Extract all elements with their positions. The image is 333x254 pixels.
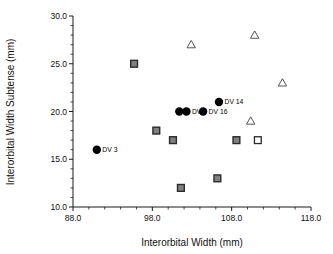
y-tick-label: 25.0 xyxy=(50,59,67,69)
scatter-chart: 10.015.020.025.030.0 88.098.0108.0118.0 … xyxy=(0,0,333,254)
marker-open-square xyxy=(254,137,261,144)
marker-filled-circle xyxy=(199,107,207,115)
chart-svg: 10.015.020.025.030.0 88.098.0108.0118.0 … xyxy=(0,0,333,254)
y-tick-label: 20.0 xyxy=(50,107,67,117)
x-tick-label: 88.0 xyxy=(65,213,82,223)
series-open-squares xyxy=(254,137,261,144)
x-tick-label: 108.0 xyxy=(221,213,243,223)
x-tick-label: 98.0 xyxy=(144,213,161,223)
point-label: DV 14 xyxy=(224,98,243,105)
x-axis-title: Interorbital Width (mm) xyxy=(141,237,243,248)
chart-background xyxy=(0,0,333,254)
marker-filled-square xyxy=(153,127,160,134)
point-label: DV 3 xyxy=(102,146,117,153)
y-tick-label: 15.0 xyxy=(50,154,67,164)
y-axis-title: Interorbital Width Subtense (mm) xyxy=(5,39,16,186)
y-tick-label: 10.0 xyxy=(50,202,67,212)
marker-filled-circle xyxy=(182,107,190,115)
marker-filled-square xyxy=(214,175,221,182)
y-tick-label: 30.0 xyxy=(50,11,67,21)
marker-filled-circle xyxy=(215,98,223,106)
marker-filled-square xyxy=(170,137,177,144)
point-label: DV 16 xyxy=(209,108,228,115)
marker-filled-square xyxy=(131,60,138,67)
x-tick-label: 118.0 xyxy=(301,213,322,223)
marker-filled-square xyxy=(233,137,240,144)
marker-filled-circle xyxy=(93,146,101,154)
marker-filled-square xyxy=(177,185,184,192)
